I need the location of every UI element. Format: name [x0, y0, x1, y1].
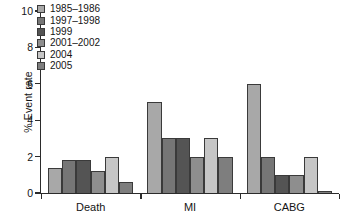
bar — [289, 175, 303, 193]
legend-item: 2004 — [37, 50, 100, 60]
bar — [119, 182, 133, 193]
legend-label: 1999 — [50, 27, 72, 37]
legend-swatch-icon — [37, 51, 45, 59]
x-axis-category-label: Death — [76, 201, 105, 213]
bar — [76, 160, 90, 193]
x-tick — [140, 194, 141, 199]
y-tick-label: 6 — [0, 78, 33, 90]
bar — [190, 157, 204, 193]
chart-figure: % Event rate DeathMICABG 1985–19861997–1… — [0, 0, 342, 219]
bar — [48, 168, 62, 193]
legend-label: 1997–1998 — [50, 16, 100, 26]
y-tick — [35, 156, 40, 157]
bar — [176, 138, 190, 193]
x-tick — [339, 194, 340, 199]
bar — [261, 157, 275, 193]
y-tick — [35, 83, 40, 84]
bar — [275, 175, 289, 193]
legend: 1985–19861997–199819992001–200220042005 — [37, 4, 100, 71]
bar — [91, 171, 105, 193]
bar — [105, 157, 119, 193]
y-tick-label: 2 — [0, 151, 33, 163]
y-tick-label: 10 — [0, 5, 33, 17]
bar — [62, 160, 76, 193]
bar — [304, 157, 318, 193]
legend-swatch-icon — [37, 17, 45, 25]
legend-swatch-icon — [37, 28, 45, 36]
bar — [247, 84, 261, 193]
legend-item: 2005 — [37, 61, 100, 71]
legend-label: 2001–2002 — [50, 38, 100, 48]
x-tick — [240, 194, 241, 199]
legend-swatch-icon — [37, 62, 45, 70]
legend-item: 2001–2002 — [37, 38, 100, 48]
legend-item: 1999 — [37, 27, 100, 37]
legend-label: 2005 — [50, 61, 72, 71]
y-tick — [35, 192, 40, 193]
x-axis-line — [40, 193, 339, 194]
y-tick-label: 4 — [0, 114, 33, 126]
legend-label: 2004 — [50, 50, 72, 60]
legend-swatch-icon — [37, 5, 45, 13]
y-tick — [35, 120, 40, 121]
legend-item: 1985–1986 — [37, 4, 100, 14]
legend-label: 1985–1986 — [50, 4, 100, 14]
x-tick — [41, 194, 42, 199]
bar — [162, 138, 176, 193]
legend-swatch-icon — [37, 39, 45, 47]
y-tick-label: 0 — [0, 187, 33, 199]
legend-item: 1997–1998 — [37, 15, 100, 25]
bar — [318, 191, 332, 193]
x-axis-category-label: CABG — [274, 201, 305, 213]
x-axis-category-label: MI — [184, 201, 196, 213]
y-tick-label: 8 — [0, 41, 33, 53]
bar — [204, 138, 218, 193]
bar — [147, 102, 161, 193]
bar — [218, 157, 232, 193]
